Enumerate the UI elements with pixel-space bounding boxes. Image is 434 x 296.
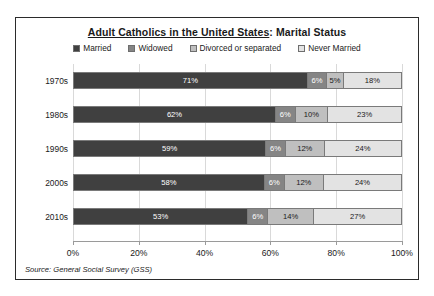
x-axis-tick-label: 60% (250, 248, 290, 258)
bar-row: 59%6%12%24% (73, 140, 402, 157)
legend-swatch-icon (190, 45, 197, 52)
bar-segment[interactable]: 18% (343, 72, 402, 89)
legend-label: Never Married (308, 44, 361, 52)
y-axis-category-label: 1990s (32, 144, 68, 154)
bar-row: 58%6%12%24% (73, 174, 402, 191)
bar-value-label: 6% (252, 212, 263, 221)
bar-segment[interactable]: 6% (265, 140, 285, 157)
y-axis-category-label: 2010s (32, 212, 68, 222)
bar-value-label: 6% (270, 144, 281, 153)
x-axis-line (73, 241, 402, 242)
chart-title-underlined: Adult Catholics in the United States (88, 26, 270, 38)
bar-segment[interactable]: 14% (267, 208, 313, 225)
chart-card: Adult Catholics in the United States: Ma… (15, 17, 419, 280)
x-axis-tick (336, 241, 337, 245)
bar-segment[interactable]: 53% (73, 208, 247, 225)
bar-segment[interactable]: 62% (73, 106, 275, 123)
x-axis-tick-label: 100% (382, 248, 419, 258)
bar-value-label: 6% (280, 110, 291, 119)
bar-segment[interactable]: 23% (327, 106, 402, 123)
x-axis-tick-label: 20% (119, 248, 159, 258)
bar-segment[interactable]: 24% (324, 140, 402, 157)
legend-label: Married (83, 44, 111, 52)
bar-value-label: 5% (330, 76, 341, 85)
bar-segment[interactable]: 6% (264, 174, 284, 191)
bar-segment[interactable]: 5% (326, 72, 342, 89)
chart-legend: MarriedWidowedDivorced or separatedNever… (16, 44, 418, 52)
x-axis-tick-label: 80% (316, 248, 356, 258)
chart-title: Adult Catholics in the United States: Ma… (16, 26, 418, 38)
bar-value-label: 18% (365, 76, 380, 85)
bar-value-label: 24% (355, 144, 370, 153)
bar-value-label: 12% (296, 178, 311, 187)
bar-value-label: 10% (304, 110, 319, 119)
gridline (402, 64, 403, 241)
bar-value-label: 6% (269, 178, 280, 187)
legend-swatch-icon (298, 45, 305, 52)
source-note: Source: General Social Survey (GSS) (25, 265, 152, 274)
bar-segment[interactable]: 24% (323, 174, 402, 191)
bar-value-label: 12% (297, 144, 312, 153)
x-axis-tick-label: 40% (185, 248, 225, 258)
legend-swatch-icon (73, 45, 80, 52)
x-axis-tick (205, 241, 206, 245)
x-axis-tick (73, 241, 74, 245)
bar-row: 53%6%14%27% (73, 208, 402, 225)
legend-item[interactable]: Married (73, 44, 111, 52)
bar-value-label: 53% (153, 212, 168, 221)
bar-segment[interactable]: 27% (313, 208, 402, 225)
bar-row: 71%6%5%18% (73, 72, 402, 89)
x-axis-tick (270, 241, 271, 245)
bar-value-label: 23% (357, 110, 372, 119)
legend-label: Widowed (138, 44, 172, 52)
y-axis-category-label: 2000s (32, 178, 68, 188)
legend-item[interactable]: Widowed (128, 44, 172, 52)
bar-segment[interactable]: 6% (307, 72, 327, 89)
x-axis-tick-label: 0% (53, 248, 93, 258)
bar-segment[interactable]: 12% (285, 140, 324, 157)
bar-value-label: 6% (311, 76, 322, 85)
bar-value-label: 58% (161, 178, 176, 187)
bar-segment[interactable]: 59% (73, 140, 265, 157)
y-axis-category-label: 1970s (32, 76, 68, 86)
legend-item[interactable]: Never Married (298, 44, 361, 52)
bar-value-label: 62% (167, 110, 182, 119)
bar-segment[interactable]: 58% (73, 174, 264, 191)
bar-value-label: 59% (162, 144, 177, 153)
bar-segment[interactable]: 6% (247, 208, 267, 225)
bar-segment[interactable]: 6% (275, 106, 295, 123)
legend-swatch-icon (128, 45, 135, 52)
bar-value-label: 14% (283, 212, 298, 221)
bar-value-label: 27% (350, 212, 365, 221)
bar-value-label: 71% (183, 76, 198, 85)
bar-value-label: 24% (355, 178, 370, 187)
bar-segment[interactable]: 71% (73, 72, 307, 89)
bar-segment[interactable]: 12% (284, 174, 323, 191)
plot-area: 71%6%5%18%62%6%10%23%59%6%12%24%58%6%12%… (73, 64, 402, 241)
bar-row: 62%6%10%23% (73, 106, 402, 123)
y-axis-category-label: 1980s (32, 110, 68, 120)
legend-label: Divorced or separated (200, 44, 282, 52)
legend-item[interactable]: Divorced or separated (190, 44, 282, 52)
chart-title-plain: : Marital Status (269, 26, 346, 38)
bar-segment[interactable]: 10% (295, 106, 328, 123)
x-axis-tick (402, 241, 403, 245)
x-axis-tick (139, 241, 140, 245)
